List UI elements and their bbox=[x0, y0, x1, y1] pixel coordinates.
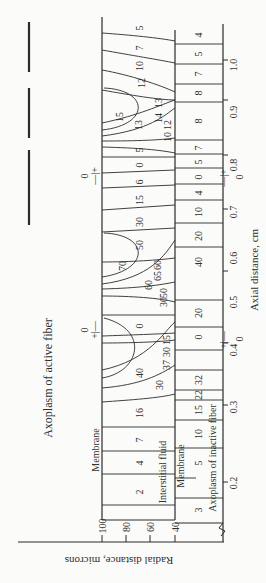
svg-text:60: 60 bbox=[152, 260, 163, 270]
svg-text:20: 20 bbox=[193, 308, 204, 318]
svg-text:65: 65 bbox=[152, 271, 163, 281]
svg-text:7: 7 bbox=[193, 146, 204, 151]
y-tick-label-80: 80 bbox=[121, 522, 132, 532]
svg-text:0.7: 0.7 bbox=[228, 206, 239, 219]
svg-text:5: 5 bbox=[134, 148, 145, 153]
sign-marker-right: 0 —|+ —|+ 0 bbox=[79, 167, 245, 188]
svg-text:10: 10 bbox=[193, 207, 204, 217]
svg-text:20: 20 bbox=[193, 231, 204, 241]
svg-text:32: 32 bbox=[193, 375, 204, 385]
svg-text:40: 40 bbox=[134, 368, 145, 378]
svg-text:7: 7 bbox=[134, 46, 145, 51]
svg-text:16: 16 bbox=[134, 408, 145, 418]
y-tick-label-100: 100 bbox=[97, 519, 108, 534]
svg-text:30: 30 bbox=[161, 347, 172, 357]
inactive-values: 3 5 10 15 22 32 0 20 40 20 10 4 0 5 7 8 … bbox=[193, 33, 204, 513]
svg-text:8: 8 bbox=[193, 119, 204, 124]
svg-text:7: 7 bbox=[134, 438, 145, 443]
potential-contour-diagram: Axoplasm of active fiber 100 80 60 40 Ra… bbox=[0, 0, 266, 583]
svg-text:10: 10 bbox=[134, 61, 145, 71]
svg-text:40: 40 bbox=[193, 257, 204, 267]
svg-text:30: 30 bbox=[154, 380, 165, 390]
svg-text:15: 15 bbox=[114, 112, 125, 122]
svg-text:0.2: 0.2 bbox=[228, 477, 239, 490]
svg-text:0.8: 0.8 bbox=[228, 159, 239, 172]
svg-text:3: 3 bbox=[193, 508, 204, 513]
axis-break-icon bbox=[219, 523, 225, 536]
svg-text:5: 5 bbox=[134, 26, 145, 31]
svg-text:0: 0 bbox=[193, 335, 204, 340]
svg-text:15: 15 bbox=[161, 335, 172, 345]
svg-text:15: 15 bbox=[134, 195, 145, 205]
svg-text:5: 5 bbox=[193, 52, 204, 57]
svg-text:14: 14 bbox=[153, 113, 164, 123]
x-axis-label: Axial distance, cm bbox=[248, 228, 260, 311]
svg-text:13: 13 bbox=[153, 98, 164, 108]
interstitial-contours bbox=[102, 33, 175, 505]
svg-text:0.5: 0.5 bbox=[228, 296, 239, 309]
y-axis-label: Radial distance, microns bbox=[65, 555, 173, 567]
svg-text:50: 50 bbox=[158, 288, 169, 298]
svg-text:0.9: 0.9 bbox=[228, 106, 239, 119]
svg-text:10: 10 bbox=[162, 132, 173, 142]
svg-text:22: 22 bbox=[193, 390, 204, 400]
svg-text:37: 37 bbox=[161, 360, 172, 370]
svg-text:0: 0 bbox=[234, 175, 245, 180]
svg-text:5: 5 bbox=[193, 160, 204, 165]
svg-text:0.6: 0.6 bbox=[228, 252, 239, 265]
svg-text:+|—: +|— bbox=[89, 320, 100, 339]
svg-text:0.3: 0.3 bbox=[228, 401, 239, 414]
svg-text:0: 0 bbox=[193, 175, 204, 180]
svg-text:7: 7 bbox=[193, 72, 204, 77]
label-interstitial-fluid: Interstitial fluid bbox=[157, 441, 168, 504]
x-axis-ticks bbox=[223, 60, 228, 482]
svg-text:—|+: —|+ bbox=[89, 167, 100, 186]
svg-text:10: 10 bbox=[193, 429, 204, 439]
svg-text:13: 13 bbox=[133, 120, 144, 130]
svg-text:15: 15 bbox=[193, 405, 204, 415]
y-tick-label-60: 60 bbox=[145, 522, 156, 532]
svg-text:0: 0 bbox=[234, 337, 245, 342]
label-inactive-membrane: Membrane bbox=[175, 444, 186, 488]
svg-text:8: 8 bbox=[193, 91, 204, 96]
interstitial-values: 2 4 7 16 30 40 37 30 15 0 30 50 60 65 70… bbox=[114, 26, 173, 495]
svg-text:2: 2 bbox=[134, 490, 145, 495]
svg-text:50: 50 bbox=[134, 240, 145, 250]
svg-text:0: 0 bbox=[134, 163, 145, 168]
svg-text:30: 30 bbox=[134, 217, 145, 227]
svg-text:6: 6 bbox=[134, 180, 145, 185]
svg-text:0: 0 bbox=[134, 324, 145, 329]
x-axis-tick-labels: 0.2 0.3 0.4 0.5 0.6 0.7 0.8 0.9 1.0 bbox=[228, 59, 239, 490]
svg-text:—|+: —|+ bbox=[218, 169, 229, 188]
label-active-membrane: Membrane bbox=[90, 428, 101, 472]
svg-text:4: 4 bbox=[134, 461, 145, 466]
svg-text:70: 70 bbox=[117, 261, 128, 271]
svg-text:5: 5 bbox=[193, 461, 204, 466]
svg-text:1.0: 1.0 bbox=[228, 59, 239, 72]
svg-text:4: 4 bbox=[193, 33, 204, 38]
svg-text:12: 12 bbox=[136, 78, 147, 88]
svg-text:+|—: +|— bbox=[218, 330, 229, 349]
svg-text:0.4: 0.4 bbox=[228, 344, 239, 357]
svg-text:4: 4 bbox=[193, 191, 204, 196]
label-active-axoplasm: Axoplasm of active fiber bbox=[41, 318, 55, 438]
